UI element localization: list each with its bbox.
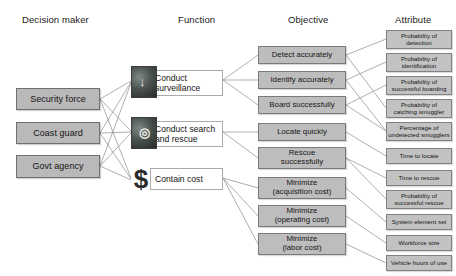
objective-label-line1: Board successfully <box>259 101 345 110</box>
objective-box[interactable]: Rescuesuccessfully <box>258 147 346 169</box>
attribute-box[interactable]: Percentage ofundetected smugglers <box>386 122 452 141</box>
objective-box[interactable]: Board successfully <box>258 96 346 114</box>
connector-line <box>346 158 386 178</box>
attribute-label: Vehicle hours of use <box>387 260 451 267</box>
attribute-label: Percentage ofundetected smugglers <box>387 125 451 139</box>
attribute-label-line2: successful rescue <box>387 200 451 207</box>
surveillance-figure-glyph: ↓ <box>139 75 146 88</box>
objective-box[interactable]: Minimize(labor cost) <box>258 233 346 255</box>
objective-label-line2: (labor cost) <box>259 244 345 253</box>
attribute-box[interactable]: Probability ofsuccessful rescue <box>386 190 452 209</box>
connector-line <box>346 55 386 108</box>
attribute-box[interactable]: System element set <box>386 214 452 230</box>
attribute-box[interactable]: Probability ofcatching smuggler <box>386 99 452 118</box>
attribute-label: Time to locate <box>387 153 451 160</box>
attribute-label: Probability ofdetection <box>387 33 451 47</box>
attribute-label-line1: Time to rescue <box>387 175 451 182</box>
connector-line <box>223 55 258 80</box>
function-label: Conduct surveillance <box>155 73 200 94</box>
attribute-label-line1: Workforce size <box>387 240 451 247</box>
decision-maker-box[interactable]: Coast guard <box>16 122 100 144</box>
attribute-label-line2: detection <box>387 40 451 47</box>
objective-label-line1: Identify accurately <box>259 76 345 85</box>
function-label-line2: surveillance <box>155 83 200 93</box>
objective-label-line2: (acquisition cost) <box>259 188 345 197</box>
objective-label: Identify accurately <box>259 76 345 85</box>
objective-label: Locate quickly <box>259 128 345 137</box>
objective-label-line1: Locate quickly <box>259 128 345 137</box>
connector-line <box>100 81 131 99</box>
diagram-canvas: Decision maker Function Objective Attrib… <box>0 0 456 276</box>
attribute-label: Probability ofcatching smuggler <box>387 102 451 116</box>
column-header-decision-maker: Decision maker <box>22 14 89 25</box>
objective-label-line2: (operating cost) <box>259 216 345 225</box>
connector-line <box>223 178 258 188</box>
function-box[interactable]: Conduct search and rescue <box>150 121 223 147</box>
decision-maker-label: Security force <box>17 94 99 104</box>
connector-line <box>346 80 386 131</box>
function-label-line1: Contain cost <box>155 174 203 184</box>
objective-label-line1: Detect accurately <box>259 51 345 60</box>
column-header-function: Function <box>178 14 215 25</box>
objective-box[interactable]: Minimize(operating cost) <box>258 205 346 227</box>
search-rescue-boat-glyph: ◎ <box>139 126 150 139</box>
attribute-label-line1: Time to locate <box>387 153 451 160</box>
objective-box[interactable]: Minimize(acquisition cost) <box>258 177 346 199</box>
attribute-box[interactable]: Vehicle hours of use <box>386 255 452 271</box>
connector-line <box>100 99 131 131</box>
function-label-line1: Conduct <box>155 73 200 83</box>
attribute-label-line2: undetected smugglers <box>387 132 451 139</box>
connector-line <box>100 166 131 180</box>
connector-line <box>223 178 258 244</box>
connector-line <box>346 132 386 156</box>
objective-label: Board successfully <box>259 101 345 110</box>
attribute-box[interactable]: Probability ofsuccessful boarding <box>386 76 452 95</box>
connector-line <box>346 105 386 131</box>
column-header-attribute: Attribute <box>395 14 431 25</box>
connector-line <box>100 133 131 179</box>
connector-line <box>346 85 386 105</box>
connector-line <box>346 188 386 222</box>
attribute-label: Probability ofsuccessful boarding <box>387 79 451 93</box>
connector-line <box>346 216 386 243</box>
function-label: Conduct search and rescue <box>155 124 215 145</box>
objective-label: Minimize(operating cost) <box>259 207 345 224</box>
attribute-label-line2: catching smuggler <box>387 109 451 116</box>
attribute-label-line2: successful boarding <box>387 86 451 93</box>
connector-line <box>223 178 258 216</box>
decision-maker-box[interactable]: Security force <box>16 88 100 110</box>
objective-box[interactable]: Identify accurately <box>258 71 346 89</box>
attribute-label: Workforce size <box>387 240 451 247</box>
function-label-line2: and rescue <box>155 134 215 144</box>
objective-box[interactable]: Locate quickly <box>258 123 346 141</box>
attribute-box[interactable]: Time to rescue <box>386 170 452 186</box>
connector-line <box>100 99 131 178</box>
attribute-label: Probability ofidentification <box>387 56 451 70</box>
objective-label: Detect accurately <box>259 51 345 60</box>
function-box[interactable]: Conduct surveillance <box>150 70 223 96</box>
attribute-box[interactable]: Time to locate <box>386 148 452 164</box>
attribute-box[interactable]: Workforce size <box>386 235 452 251</box>
function-label-line1: Conduct search <box>155 124 215 134</box>
search-rescue-photo-icon: ◎ <box>131 117 157 149</box>
connector-line <box>223 80 258 105</box>
objective-label: Minimize(acquisition cost) <box>259 179 345 196</box>
connector-line <box>100 83 131 166</box>
objective-box[interactable]: Detect accurately <box>258 46 346 64</box>
objective-label: Rescuesuccessfully <box>259 149 345 166</box>
attribute-label: System element set <box>387 219 451 226</box>
attribute-label-line1: System element set <box>387 219 451 226</box>
attribute-box[interactable]: Probability ofdetection <box>386 30 452 49</box>
attribute-box[interactable]: Probability ofidentification <box>386 53 452 72</box>
attribute-label: Probability ofsuccessful rescue <box>387 193 451 207</box>
function-box[interactable]: Contain cost <box>150 168 223 190</box>
connector-line <box>346 158 386 199</box>
attribute-label-line2: identification <box>387 63 451 70</box>
column-header-objective: Objective <box>288 14 329 25</box>
surveillance-photo-icon: ↓ <box>131 66 157 98</box>
connector-line <box>100 82 131 133</box>
objective-label: Minimize(labor cost) <box>259 235 345 252</box>
decision-maker-box[interactable]: Govt agency <box>16 155 100 178</box>
connector-line <box>100 132 131 133</box>
attribute-label: Time to rescue <box>387 175 451 182</box>
